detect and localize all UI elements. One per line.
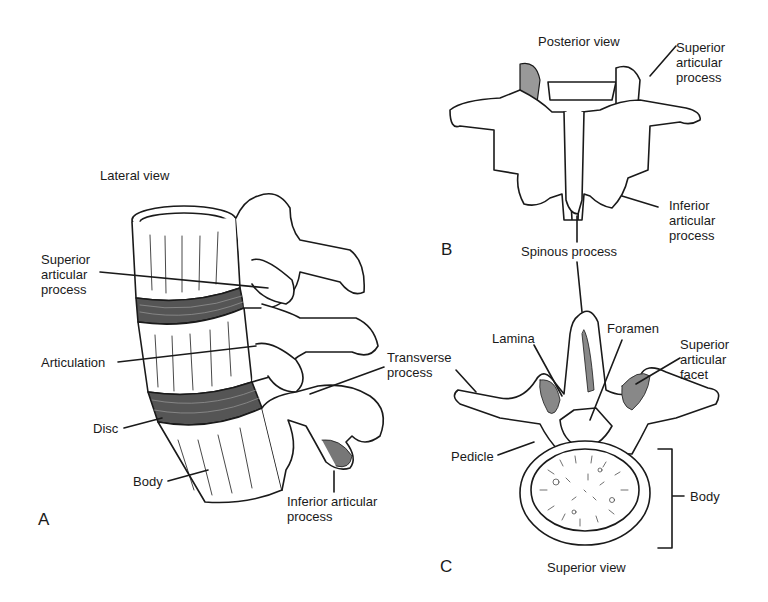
label-inferior-articular-process-lateral: Inferior articular process <box>287 494 377 524</box>
label-lamina: Lamina <box>492 331 535 346</box>
lateral-view-title: Lateral view <box>100 168 169 183</box>
panel-letter-b: B <box>441 240 452 260</box>
label-body-superior: Body <box>690 489 720 504</box>
label-disc: Disc <box>93 421 118 436</box>
vertebra-illustration <box>0 0 768 602</box>
superior-view-title: Superior view <box>547 560 626 575</box>
posterior-view-drawing <box>450 46 700 312</box>
label-foramen: Foramen <box>607 321 659 336</box>
label-superior-articular-process-lateral: Superior articular process <box>41 252 90 297</box>
label-inferior-articular-process-posterior: Inferior articular process <box>669 198 715 243</box>
label-pedicle: Pedicle <box>451 449 494 464</box>
label-spinous-process: Spinous process <box>521 244 617 259</box>
label-superior-articular-facet: Superior articular facet <box>680 337 729 382</box>
label-transverse-process: Transverse process <box>387 350 452 380</box>
label-articulation: Articulation <box>41 355 105 370</box>
posterior-view-title: Posterior view <box>538 34 620 49</box>
panel-letter-c: C <box>440 557 452 577</box>
label-superior-articular-process-posterior: Superior articular process <box>676 40 725 85</box>
lateral-view-drawing <box>100 194 384 503</box>
label-body-lateral: Body <box>133 474 163 489</box>
panel-letter-a: A <box>38 510 49 530</box>
